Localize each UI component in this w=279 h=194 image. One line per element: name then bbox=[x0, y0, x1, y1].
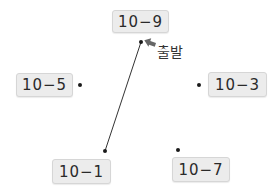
node-label: 10−9 bbox=[118, 13, 163, 31]
node-label: 10−3 bbox=[215, 76, 260, 94]
node-label: 10−1 bbox=[59, 163, 104, 181]
start-label: 출발 bbox=[157, 41, 183, 61]
start-arrow-icon bbox=[143, 36, 157, 48]
dot-10-9 bbox=[139, 40, 143, 44]
node-10-5: 10−5 bbox=[16, 73, 73, 97]
node-10-1: 10−1 bbox=[52, 159, 111, 184]
node-label: 10−5 bbox=[22, 76, 67, 94]
dot-10-3 bbox=[197, 83, 201, 87]
node-10-3: 10−3 bbox=[208, 72, 267, 97]
node-label: 10−7 bbox=[178, 161, 223, 179]
edge-10-9-to-10-1 bbox=[105, 42, 141, 151]
dot-10-1 bbox=[103, 149, 107, 153]
node-10-7: 10−7 bbox=[172, 157, 230, 182]
dot-10-7 bbox=[176, 148, 180, 152]
dot-10-5 bbox=[78, 83, 82, 87]
node-10-9: 10−9 bbox=[112, 10, 169, 33]
